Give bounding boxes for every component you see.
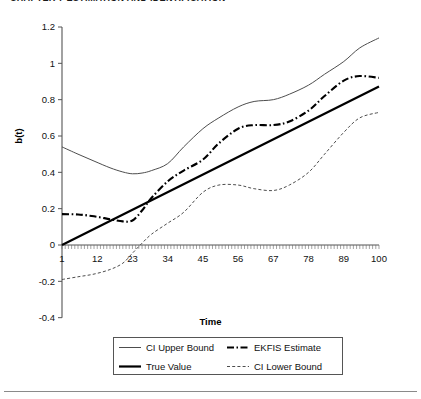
x-tick-label: 1 xyxy=(59,253,64,264)
legend-swatch-true-value xyxy=(118,362,142,371)
legend-label-ci-lower-bound: CI Lower Bound xyxy=(254,362,322,372)
legend-swatch-ci-lower-bound xyxy=(226,362,250,371)
series-ci-upper-bound xyxy=(62,38,379,174)
x-tick-label: 34 xyxy=(162,253,173,264)
series-true-value xyxy=(62,87,379,245)
y-tick-label: 0 xyxy=(50,239,55,250)
legend-item-true-value: True Value xyxy=(118,362,226,372)
legend-label-ekfis-estimate: EKFIS Estimate xyxy=(254,343,321,353)
legend-item-ekfis-estimate: EKFIS Estimate xyxy=(226,343,348,353)
legend-label-true-value: True Value xyxy=(146,362,191,372)
x-tick-label: 100 xyxy=(371,253,387,264)
line-chart: -0.4-0.200.20.40.60.811.2112233445566778… xyxy=(0,8,421,338)
y-tick-label: 0.8 xyxy=(42,94,55,105)
chart-figure: -0.4-0.200.20.40.60.811.2112233445566778… xyxy=(0,8,421,338)
chart-legend: CI Upper Bound EKFIS Estimate True Value… xyxy=(113,337,343,375)
y-tick-label: 1 xyxy=(50,58,55,69)
x-tick-label: 23 xyxy=(127,253,138,264)
running-head: CHAPTER 7 ESTIMATION AND IDENTIFICATION xyxy=(10,0,226,1)
x-tick-label: 89 xyxy=(338,253,349,264)
legend-swatch-ci-upper-bound xyxy=(118,343,142,352)
legend-swatch-ekfis-estimate xyxy=(226,343,250,352)
y-axis-title: b(t) xyxy=(13,128,24,143)
y-tick-label: 1.2 xyxy=(42,21,55,32)
y-tick-label: 0.6 xyxy=(42,130,55,141)
y-tick-label: -0.2 xyxy=(39,276,55,287)
legend-item-ci-lower-bound: CI Lower Bound xyxy=(226,362,348,372)
legend-item-ci-upper-bound: CI Upper Bound xyxy=(118,343,226,353)
x-tick-label: 56 xyxy=(233,253,244,264)
x-tick-label: 78 xyxy=(303,253,314,264)
x-tick-label: 45 xyxy=(198,253,209,264)
x-tick-label: 12 xyxy=(92,253,103,264)
page-root: CHAPTER 7 ESTIMATION AND IDENTIFICATION … xyxy=(0,0,421,399)
y-tick-label: 0.4 xyxy=(42,167,55,178)
series-ekfis-estimate xyxy=(62,76,379,222)
x-tick-label: 67 xyxy=(268,253,279,264)
footer-divider xyxy=(4,391,417,392)
legend-label-ci-upper-bound: CI Upper Bound xyxy=(146,343,214,353)
series-ci-lower-bound xyxy=(62,112,379,279)
y-tick-label: 0.2 xyxy=(42,203,55,214)
x-axis-title: Time xyxy=(0,316,421,327)
